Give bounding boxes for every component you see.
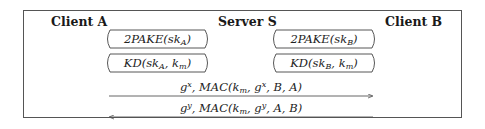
exchange-2pake-b: 2PAKE(skB) [270,29,378,49]
message-b-to-a: gy, MAC(km, gy, A, B) [108,101,374,121]
exchange-2pake-a: 2PAKE(skA) [104,29,211,49]
message-label: gy, MAC(km, gy, A, B) [108,101,374,116]
exchange-label: KD(skA, km) [104,56,211,71]
arrow-left-icon [108,115,374,120]
message-a-to-b: gx, MAC(km, gx, B, A) [108,80,374,100]
party-client-b: Client B [385,14,442,29]
party-client-a: Client A [51,14,107,29]
arrow-right-icon [108,94,374,99]
exchange-kd-b: KD(skB, km) [270,53,378,73]
message-label: gx, MAC(km, gx, B, A) [108,80,374,95]
exchange-label: 2PAKE(skA) [104,32,211,47]
exchange-label: KD(skB, km) [270,56,378,71]
exchange-kd-a: KD(skA, km) [104,53,211,73]
party-server-s: Server S [218,14,277,29]
exchange-label: 2PAKE(skB) [270,32,378,47]
